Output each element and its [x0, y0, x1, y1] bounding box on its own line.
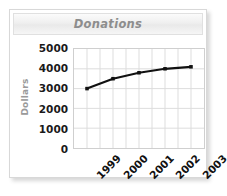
data-point-marker [85, 87, 89, 91]
data-point-marker [189, 65, 193, 69]
y-axis-tick: 5000 [36, 43, 68, 54]
x-axis-tick: 2001 [147, 152, 176, 181]
chart-widget: Donations Dollars 500040003000200010000 … [9, 9, 207, 178]
y-axis-tick-labels: 500040003000200010000 [36, 48, 68, 149]
y-axis-tick: 4000 [36, 63, 68, 74]
data-point-marker [137, 71, 141, 75]
data-point-marker [111, 77, 115, 81]
y-axis-tick: 1000 [36, 124, 68, 135]
x-axis-tick: 2003 [200, 152, 221, 181]
y-axis-tick: 0 [36, 144, 68, 155]
x-axis-tick-labels: 19992000200120022003 [73, 149, 205, 177]
page-title: Donations [74, 17, 142, 31]
data-point-marker [163, 67, 167, 71]
x-axis-tick: 2000 [121, 152, 150, 181]
series-line [87, 67, 191, 89]
y-axis-tick: 3000 [36, 83, 68, 94]
x-axis-tick: 1999 [94, 152, 123, 181]
plot-area [73, 48, 205, 149]
x-axis-tick: 2002 [173, 152, 202, 181]
chart-plot-region: Dollars 500040003000200010000 1999200020… [10, 36, 206, 177]
data-series-line [74, 49, 204, 148]
chart-title-bar: Donations [13, 13, 203, 35]
y-axis-label: Dollars [20, 74, 30, 120]
y-axis-tick: 2000 [36, 103, 68, 114]
